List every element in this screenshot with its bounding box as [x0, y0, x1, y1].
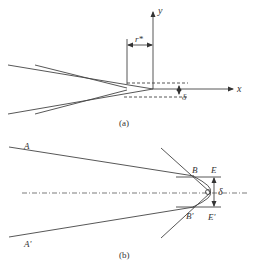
label-A: A	[23, 141, 30, 151]
r-star-label: r*	[135, 34, 144, 44]
label-E: E	[210, 165, 217, 175]
outer-upper-line	[8, 65, 153, 89]
wedge-crack-diagram: y x r* δ (a) A A' B B' E E' δ (b)	[0, 0, 254, 267]
label-A-prime: A'	[23, 239, 32, 249]
delta-label-b: δ	[218, 186, 223, 197]
figure-b	[9, 147, 247, 238]
blunted-tip-curve	[193, 176, 211, 207]
tangent-upper	[161, 148, 211, 193]
y-axis-label: y	[157, 5, 163, 16]
face-A-prime-B-prime	[9, 207, 194, 237]
outer-lower-line	[8, 89, 153, 114]
label-B: B	[192, 165, 198, 175]
figure-a	[8, 12, 233, 114]
x-axis-label: x	[236, 83, 242, 94]
caption-a: (a)	[119, 118, 129, 128]
face-AB	[9, 147, 194, 176]
label-B-prime: B'	[186, 211, 194, 221]
inner-upper-line	[35, 65, 127, 88]
caption-b: (b)	[119, 250, 130, 260]
label-E-prime: E'	[207, 212, 216, 222]
inner-lower-line	[35, 90, 127, 114]
